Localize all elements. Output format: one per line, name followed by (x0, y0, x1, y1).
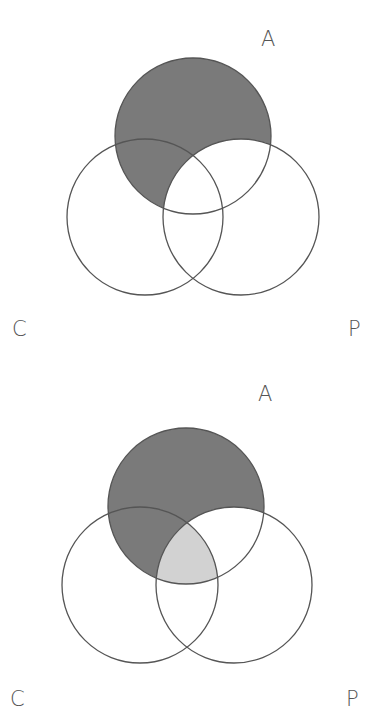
label-a: A (258, 382, 272, 406)
label-a: A (261, 27, 275, 51)
venn-diagram-1: A C P (0, 0, 378, 362)
region-a-minus-p (115, 58, 271, 214)
label-p: P (346, 687, 359, 711)
venn-diagram-2: A C P (0, 362, 378, 723)
label-c: C (12, 317, 27, 341)
label-c: C (10, 687, 25, 711)
label-p: P (348, 317, 361, 341)
